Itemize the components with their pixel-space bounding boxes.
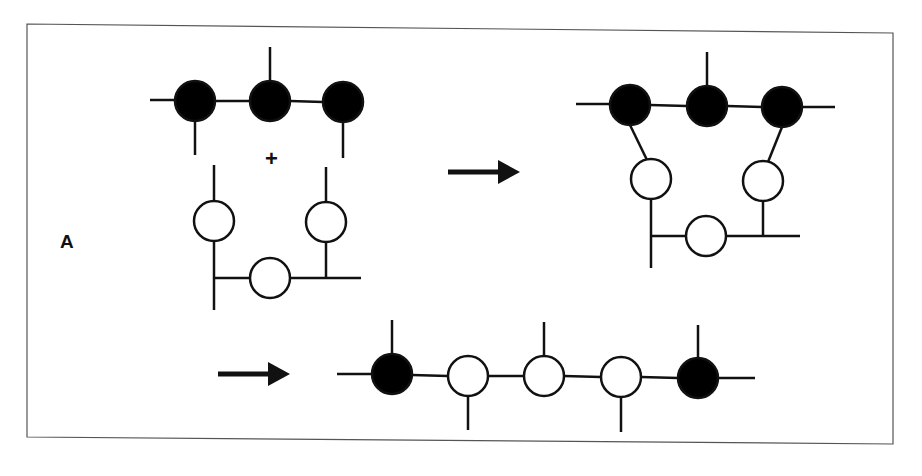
reaction-diagram (0, 0, 922, 476)
plus-operator: + (265, 148, 278, 170)
reactant-white-loop (194, 165, 361, 310)
arrow-intermediate-to-product-icon (218, 362, 290, 386)
reactant-black-chain (150, 47, 363, 158)
bond-line (727, 106, 762, 107)
intermediate-complex (576, 52, 835, 268)
filled-node-icon (323, 82, 363, 122)
open-node-icon (306, 202, 346, 242)
open-node-icon (448, 356, 488, 396)
filled-node-icon (678, 358, 718, 398)
filled-node-icon (762, 87, 802, 127)
open-node-icon (194, 201, 234, 241)
filled-node-icon (372, 354, 412, 394)
open-node-icon (686, 216, 726, 256)
arrow-reactants-to-intermediate-icon (448, 160, 520, 184)
open-node-icon (601, 357, 641, 397)
bond-line (650, 105, 687, 106)
filled-node-icon (175, 81, 215, 121)
filled-node-icon (250, 81, 290, 121)
open-node-icon (524, 356, 564, 396)
panel-label: A (60, 231, 74, 253)
product-chain (337, 320, 755, 432)
bond-line (564, 376, 601, 377)
bond-line (768, 127, 782, 162)
open-node-icon (743, 161, 783, 201)
bond-line (630, 125, 647, 160)
figure-panel: A + (0, 0, 922, 476)
filled-node-icon (610, 85, 650, 125)
open-node-icon (631, 159, 671, 199)
bond-line (641, 377, 678, 378)
open-node-icon (250, 258, 290, 298)
bond-line (412, 375, 448, 376)
filled-node-icon (687, 86, 727, 126)
bond-line (290, 101, 323, 102)
